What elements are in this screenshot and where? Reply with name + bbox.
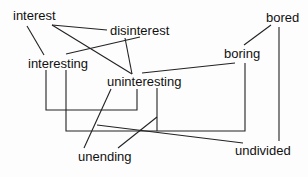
word-interesting: interesting xyxy=(28,57,88,70)
edge-uninteresting-boring xyxy=(142,63,235,73)
word-disinterest: disinterest xyxy=(110,24,169,37)
word-bored: bored xyxy=(266,11,299,24)
edge-disinterest-uninteresting xyxy=(125,38,132,74)
edge-bored-boring xyxy=(244,25,271,45)
edge-uninteresting-unending xyxy=(84,89,111,148)
word-unending: unending xyxy=(78,150,132,163)
word-relation-diagram: interest disinterest interesting uninter… xyxy=(0,0,308,177)
word-interest: interest xyxy=(13,9,56,22)
edge-interest-interesting xyxy=(27,26,44,55)
edge-interest-disinterest xyxy=(52,25,107,30)
word-uninteresting: uninteresting xyxy=(107,75,181,88)
edge-bracket-undivided xyxy=(97,125,243,143)
edge-disinterest-interesting xyxy=(66,37,140,54)
word-undivided: undivided xyxy=(235,144,291,157)
edge-leg-unending xyxy=(118,117,157,148)
word-boring: boring xyxy=(224,47,260,60)
